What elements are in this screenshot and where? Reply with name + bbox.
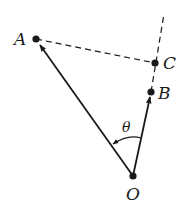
- label-o: O: [126, 184, 140, 204]
- label-c: C: [163, 53, 176, 73]
- label-a: A: [12, 29, 26, 49]
- point-b: [147, 88, 154, 95]
- point-c: [151, 59, 158, 66]
- label-theta: θ: [122, 119, 131, 135]
- dashed-line-ac: [36, 39, 155, 63]
- vector-oa: [40, 45, 133, 176]
- angle-arc-theta: [113, 137, 141, 144]
- label-b: B: [157, 83, 171, 103]
- vector-diagram: A C B O θ: [0, 0, 184, 211]
- point-a: [32, 35, 39, 42]
- point-o: [129, 172, 136, 179]
